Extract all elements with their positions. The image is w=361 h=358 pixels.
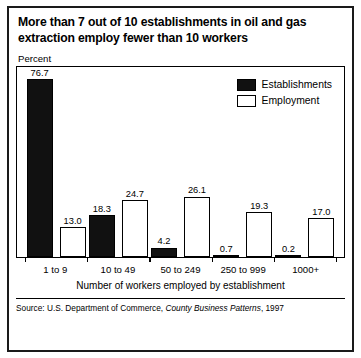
bar-rect: [122, 200, 148, 257]
bar-establishments[interactable]: 18.3: [89, 215, 115, 258]
bar-group: 18.324.7: [87, 73, 149, 257]
bar-rect: [60, 227, 86, 257]
source-note: Source: U.S. Department of Commerce, Cou…: [16, 304, 345, 313]
legend-label-employment: Employment: [262, 96, 320, 106]
chart-title-line-1: More than 7 out of 10 establishments in …: [18, 15, 343, 31]
bar-establishments[interactable]: 4.2: [151, 248, 177, 258]
bar-value-label: 76.7: [31, 69, 49, 78]
x-axis-label-3: 50 to 249: [149, 265, 212, 275]
bar-value-label: 24.7: [126, 190, 144, 199]
bar-employment[interactable]: 26.1: [184, 197, 210, 258]
legend-item-employment: Employment: [237, 95, 332, 107]
bar-group: 76.713.0: [25, 73, 87, 257]
legend-swatch-establishments-icon: [237, 79, 256, 91]
x-axis-label-2: 10 to 49: [87, 265, 150, 275]
bar-employment[interactable]: 19.3: [246, 212, 272, 257]
bar-rect: [27, 79, 53, 257]
chart-legend: Establishments Employment: [237, 79, 332, 107]
source-suffix: , 1997: [261, 303, 284, 313]
y-axis-label: Percent: [18, 54, 345, 64]
x-tick: [336, 257, 337, 262]
x-axis-label-5: 1000+: [274, 265, 337, 275]
source-prefix: Source: U.S. Department of Commerce,: [16, 303, 165, 313]
bar-employment[interactable]: 24.7: [122, 200, 148, 257]
x-axis-ticks: [25, 257, 336, 262]
x-axis-title: Number of workers employed by establishm…: [16, 281, 345, 291]
legend-swatch-employment-icon: [237, 95, 256, 107]
figure-container: More than 7 out of 10 establishments in …: [0, 0, 361, 358]
bar-value-label: 4.2: [158, 237, 171, 246]
bar-rect: [246, 212, 272, 257]
legend-label-establishments: Establishments: [262, 80, 332, 90]
chart-title-line-2: extraction employ fewer than 10 workers: [18, 31, 343, 47]
bar-value-label: 19.3: [250, 202, 268, 211]
bar-value-label: 26.1: [188, 186, 206, 195]
bar-rect: [308, 218, 334, 258]
x-axis-label-4: 250 to 999: [212, 265, 275, 275]
x-tick: [212, 257, 213, 262]
bar-value-label: 18.3: [93, 205, 111, 214]
bar-value-label: 17.0: [312, 208, 330, 217]
x-tick: [274, 257, 275, 262]
x-tick: [25, 257, 26, 262]
bar-employment[interactable]: 17.0: [308, 218, 334, 258]
x-axis-label-1: 1 to 9: [24, 265, 87, 275]
plot-frame: Establishments Employment 76.713.018.324…: [16, 66, 345, 258]
bar-value-label: 0.7: [220, 245, 233, 254]
bar-value-label: 0.2: [282, 245, 295, 254]
chart-title: More than 7 out of 10 establishments in …: [16, 13, 345, 47]
x-tick: [149, 257, 150, 262]
bar-value-label: 13.0: [64, 217, 82, 226]
legend-item-establishments: Establishments: [237, 79, 332, 91]
bar-establishments[interactable]: 76.7: [27, 79, 53, 257]
source-divider: [16, 298, 345, 299]
x-tick: [87, 257, 88, 262]
bar-rect: [184, 197, 210, 258]
bar-employment[interactable]: 13.0: [60, 227, 86, 257]
bar-rect: [89, 215, 115, 258]
x-axis-category-labels: 1 to 910 to 4950 to 249250 to 9991000+: [24, 265, 337, 275]
source-publication: County Business Patterns: [165, 303, 260, 313]
bar-group: 4.226.1: [149, 73, 211, 257]
bar-rect: [151, 248, 177, 258]
